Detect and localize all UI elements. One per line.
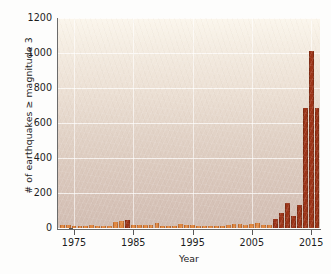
x-tick-label: 1985	[113, 237, 153, 248]
bar	[273, 219, 278, 228]
x-tick-mark	[133, 230, 134, 235]
bar	[303, 108, 308, 228]
bar	[279, 213, 284, 228]
y-tick-label: 1000	[18, 47, 52, 58]
x-tick-label: 1995	[173, 237, 213, 248]
x-tick-mark	[74, 230, 75, 235]
y-tick-label: 400	[18, 152, 52, 163]
y-tick-label: 1200	[18, 12, 52, 23]
bar	[119, 221, 124, 228]
bar	[155, 223, 160, 228]
x-tick-mark	[193, 230, 194, 235]
vertical-gridline	[74, 18, 75, 228]
bar	[297, 205, 302, 228]
bar	[238, 224, 243, 228]
y-tick-label: 600	[18, 117, 52, 128]
bar	[178, 224, 183, 228]
y-tick-label: 800	[18, 82, 52, 93]
x-tick-label: 2005	[232, 237, 272, 248]
vertical-gridline	[193, 18, 194, 228]
plot-area	[58, 18, 320, 228]
x-axis-spine	[57, 229, 321, 230]
bar	[249, 224, 254, 228]
earthquake-frequency-chart: # of earthquakes ≥ magnitude 3 020040060…	[0, 0, 331, 274]
x-tick-label: 2015	[291, 237, 331, 248]
bar	[315, 108, 320, 228]
y-axis-spine	[57, 18, 58, 229]
horizontal-gridline	[58, 88, 320, 89]
y-axis-ticks: 020040060080010001200	[16, 0, 52, 274]
x-tick-mark	[252, 230, 253, 235]
y-tick-label: 200	[18, 187, 52, 198]
bar	[113, 222, 118, 228]
x-tick-label: 1975	[54, 237, 94, 248]
horizontal-gridline	[58, 53, 320, 54]
vertical-gridline	[252, 18, 253, 228]
bar	[309, 51, 314, 228]
bar	[261, 225, 266, 229]
bar	[232, 224, 237, 228]
vertical-gridline	[133, 18, 134, 228]
x-tick-mark	[311, 230, 312, 235]
bar	[255, 223, 260, 228]
horizontal-gridline	[58, 123, 320, 124]
bar	[291, 216, 296, 228]
x-axis-label: Year	[58, 253, 320, 264]
horizontal-gridline	[58, 18, 320, 19]
bar	[125, 220, 130, 228]
horizontal-gridline	[58, 193, 320, 194]
horizontal-gridline	[58, 158, 320, 159]
bar	[131, 225, 136, 229]
y-tick-label: 0	[18, 222, 52, 233]
bar	[285, 203, 290, 228]
bar	[243, 225, 248, 229]
